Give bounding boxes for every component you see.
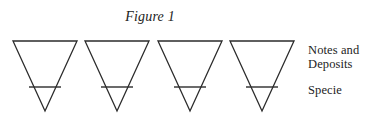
legend-notes-and-deposits: Notes and Deposits [308, 44, 359, 71]
figure-container: Figure 1 Notes and Deposits Specie [0, 0, 379, 123]
triangle-group-4 [230, 41, 294, 111]
legend-notes-and-deposits-line2: Deposits [308, 58, 359, 72]
legend-notes-and-deposits-line1: Notes and [308, 44, 359, 58]
legend-specie: Specie [308, 84, 342, 98]
triangle-group-1 [13, 41, 77, 111]
triangle-outline-4 [230, 41, 294, 111]
triangle-outline-1 [13, 41, 77, 111]
triangle-outline-2 [85, 41, 149, 111]
triangle-group-2 [85, 41, 149, 111]
triangle-outline-3 [158, 41, 222, 111]
triangle-group-3 [158, 41, 222, 111]
